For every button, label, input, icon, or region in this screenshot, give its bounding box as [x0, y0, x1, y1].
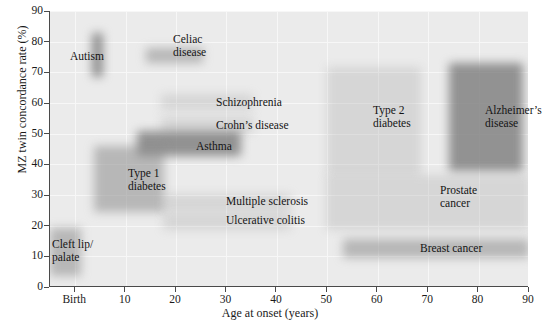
data-label-multiple-sclerosis: Multiple sclerosis [226, 195, 308, 208]
y-tick-mark [44, 195, 49, 196]
y-tick-mark [44, 287, 49, 288]
x-tick-label: 20 [169, 294, 181, 306]
y-tick-mark [44, 225, 49, 226]
y-tick-mark [44, 256, 49, 257]
data-label-autism: Autism [70, 50, 104, 63]
data-label-type-2-diabetes: Type 2 diabetes [373, 104, 411, 130]
x-tick-label: 50 [321, 294, 333, 306]
y-tick-mark [44, 164, 49, 165]
x-tick-label: 30 [220, 294, 232, 306]
x-tick-label: 10 [119, 294, 131, 306]
x-tick-label: 40 [270, 294, 282, 306]
x-tick-label: Birth [62, 294, 86, 306]
x-tick-label: 90 [522, 294, 534, 306]
x-tick-mark [225, 287, 226, 292]
x-tick-mark [376, 287, 377, 292]
gridline-vertical [277, 11, 278, 286]
x-tick-label: 70 [421, 294, 433, 306]
y-tick-label: 50 [32, 128, 44, 140]
x-axis-title: Age at onset (years) [0, 306, 540, 320]
data-label-ulcerative-colitis: Ulcerative colitis [226, 214, 305, 227]
gridline-horizontal [50, 11, 528, 12]
data-label-prostate-cancer: Prostate cancer [440, 184, 477, 210]
x-tick-mark [175, 287, 176, 292]
y-tick-label: 10 [32, 250, 44, 262]
data-label-alzheimer-s-disease: Alzheimer’s disease [485, 104, 542, 130]
y-tick-label: 30 [32, 189, 44, 201]
y-tick-mark [44, 103, 49, 104]
x-tick-mark [528, 287, 529, 292]
y-tick-label: 0 [37, 281, 43, 293]
data-label-schizophrenia: Schizophrenia [216, 96, 282, 109]
x-tick-label: 80 [472, 294, 484, 306]
x-tick-mark [477, 287, 478, 292]
data-label-celiac-disease: Celiac disease [173, 33, 206, 59]
gridline-horizontal [50, 42, 528, 43]
y-tick-mark [44, 72, 49, 73]
y-tick-label: 40 [32, 158, 44, 170]
y-tick-label: 90 [32, 5, 44, 17]
x-tick-mark [124, 287, 125, 292]
y-tick-mark [44, 41, 49, 42]
data-label-cleft-lip-palate: Cleft lip/ palate [52, 238, 93, 264]
y-tick-label: 70 [32, 66, 44, 78]
y-tick-mark [44, 11, 49, 12]
x-tick-mark [326, 287, 327, 292]
x-tick-mark [427, 287, 428, 292]
y-tick-label: 60 [32, 97, 44, 109]
data-label-asthma: Asthma [196, 140, 232, 153]
bar-prostate-cancer [326, 175, 528, 230]
data-label-type-1-diabetes: Type 1 diabetes [128, 167, 166, 193]
data-label-breast-cancer: Breast cancer [420, 242, 482, 255]
y-tick-mark [44, 133, 49, 134]
data-label-crohn-s-disease: Crohn’s disease [216, 119, 289, 132]
x-tick-mark [74, 287, 75, 292]
x-tick-label: 60 [371, 294, 383, 306]
y-axis-title: MZ twin concordance rate (%) [15, 0, 30, 200]
x-tick-mark [275, 287, 276, 292]
y-tick-label: 80 [32, 36, 44, 48]
y-tick-label: 20 [32, 220, 44, 232]
